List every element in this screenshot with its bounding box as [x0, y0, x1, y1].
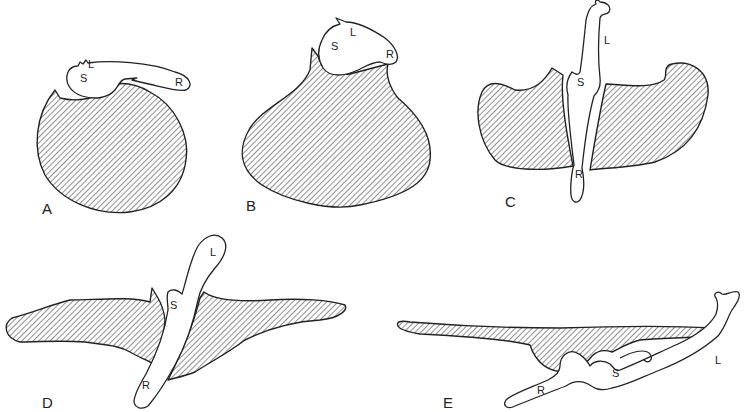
- panel-d-label-l: L: [210, 246, 216, 258]
- panel-d-label-r: R: [142, 379, 150, 391]
- panel-e-letter: E: [443, 394, 453, 411]
- panel-e-label-s: S: [612, 367, 619, 379]
- panel-d-shaded-left-wing: [6, 288, 165, 365]
- panel-c-letter: C: [505, 193, 516, 210]
- panel-c: S L R C: [478, 0, 708, 210]
- panel-a-label-s: S: [80, 72, 87, 84]
- panel-d: S L R D: [6, 235, 345, 411]
- panel-c-shaded-left-lobe: [478, 68, 573, 169]
- panel-e-label-r: R: [537, 384, 545, 396]
- panel-a-label-l: L: [88, 58, 94, 70]
- panel-b-label-s: S: [331, 40, 338, 52]
- morphology-figure: S L R A S L R B S L R C S L R D S L: [0, 0, 744, 412]
- panel-c-label-s: S: [577, 76, 584, 88]
- panel-c-label-r: R: [575, 168, 583, 180]
- panel-c-shaded-right-lobe: [590, 63, 708, 170]
- panel-c-label-l: L: [604, 34, 610, 46]
- panel-a-shaded-body: [37, 83, 186, 212]
- panel-b-letter: B: [246, 197, 256, 214]
- panel-a-letter: A: [42, 200, 52, 217]
- panel-a: S L R A: [37, 58, 190, 217]
- panel-a-label-r: R: [175, 76, 183, 88]
- panel-b-label-l: L: [350, 26, 356, 38]
- panel-d-letter: D: [42, 394, 53, 411]
- panel-e-label-l: L: [715, 354, 721, 366]
- panel-b-label-r: R: [386, 48, 394, 60]
- panel-d-label-s: S: [170, 299, 177, 311]
- panel-b: S L R B: [242, 18, 430, 214]
- panel-e: S L R E: [398, 292, 740, 411]
